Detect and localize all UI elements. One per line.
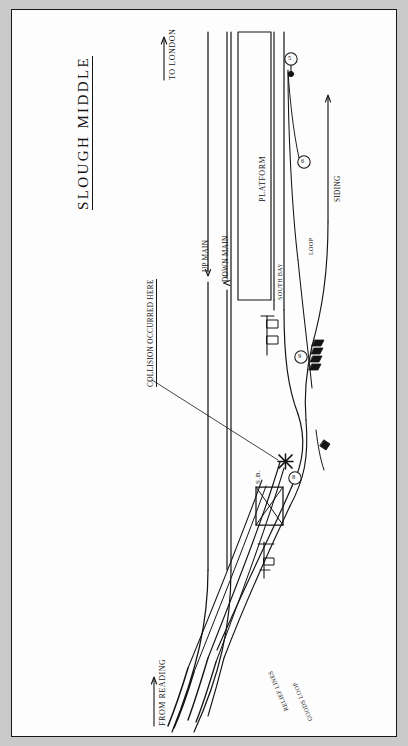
signal-number-6: 6	[301, 158, 305, 165]
platform-label: PLATFORM	[259, 156, 267, 202]
signal-number-5: 5	[288, 55, 292, 62]
signal-post-platform-a	[261, 316, 278, 355]
track-loop-secondary	[288, 70, 312, 388]
page-title: SLOUGH MIDDLE	[76, 56, 93, 210]
signal-box-label: S.B.	[255, 470, 262, 484]
track-siding	[224, 95, 331, 658]
siding-label: SIDING	[335, 175, 342, 202]
loop-label: LOOP	[308, 238, 314, 255]
catch-points-cluster	[309, 340, 324, 370]
to-london-label: TO LONDON	[169, 29, 177, 80]
signal-number-9: 9	[298, 353, 302, 360]
collision-annotation-label: COLLISION OCCURRED HERE	[148, 279, 157, 387]
collision-marker	[278, 454, 293, 469]
signal-number-8: 8	[292, 474, 296, 481]
track-relief-lines	[208, 462, 284, 662]
track-short-spur	[316, 430, 330, 470]
up-main-label: UP MAIN	[203, 240, 210, 272]
from-reading-label: FROM READING	[159, 659, 167, 726]
down-main-label: DOWN MAIN	[223, 235, 230, 282]
to-london-arrow	[161, 37, 166, 80]
track-diagram-drawing	[12, 10, 397, 737]
signal-box-symbol	[256, 487, 283, 525]
signal-post-lower	[258, 542, 274, 578]
diagram-sheet: SLOUGH MIDDLE COLLISION OCCURRED HERE TO…	[11, 9, 397, 737]
from-reading-arrow	[151, 677, 156, 726]
track-down-main	[194, 32, 231, 732]
track-bottom-fan	[168, 658, 224, 728]
south-bay-label: SOUTH BAY	[277, 263, 283, 300]
track-loop	[217, 32, 303, 650]
diagram-page: SLOUGH MIDDLE COLLISION OCCURRED HERE TO…	[0, 0, 408, 746]
annotation-leader-line	[152, 380, 278, 460]
